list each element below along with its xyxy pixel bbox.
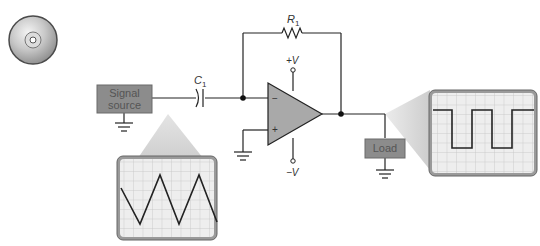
input-junction — [240, 95, 246, 101]
inverting-input-sign: − — [272, 93, 278, 104]
opamp: − + — [268, 83, 322, 145]
ground-icon — [376, 170, 394, 178]
noninverting-input-sign: + — [272, 124, 278, 135]
output-oscilloscope — [429, 90, 537, 176]
circuit-diagram: R1 C1 − + +V −V Signal source — [0, 0, 540, 246]
ground-icon — [115, 123, 133, 131]
cd-icon — [9, 16, 57, 64]
vplus-terminal — [291, 68, 295, 72]
resistor-label: R1 — [287, 13, 300, 28]
output-junction — [338, 111, 344, 117]
input-scope-beam — [138, 114, 203, 158]
ground-icon — [234, 152, 252, 160]
svg-text:Signal: Signal — [109, 87, 140, 99]
vplus-label: +V — [286, 55, 300, 66]
resistor-r1 — [282, 28, 302, 38]
capacitor-label: C1 — [194, 74, 207, 89]
svg-text:source: source — [108, 99, 141, 111]
load-box: Load — [365, 139, 405, 158]
capacitor-c1 — [196, 89, 203, 107]
vminus-label: −V — [286, 167, 300, 178]
input-oscilloscope — [117, 156, 217, 240]
svg-text:Load: Load — [373, 142, 397, 154]
signal-source-box: Signal source — [97, 85, 152, 113]
vminus-terminal — [291, 159, 295, 163]
